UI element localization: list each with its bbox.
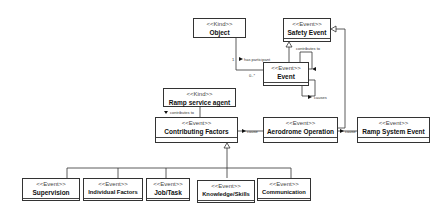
label-cause-rse: cause: [345, 129, 356, 134]
class-name: Safety Event: [284, 28, 330, 39]
class-name: Job/Task: [147, 188, 189, 199]
stereotype-label: <<Event>>: [23, 179, 79, 188]
class-name: Communication: [258, 188, 310, 199]
stereotype-label: <<Event>>: [156, 118, 237, 127]
class-safety-event[interactable]: <<Event>> Safety Event: [283, 18, 331, 42]
stereotype-label: <<Kind>>: [164, 89, 235, 98]
generalization-arrow-safety-event-right: [331, 26, 336, 32]
label-contributes-to-left: contributes to: [170, 110, 194, 115]
class-individual-factors[interactable]: <<Event>> Individual Factors: [83, 178, 143, 201]
generalization-arrow-contributing-factors: [224, 143, 230, 148]
class-name: Event: [264, 72, 308, 83]
generalization-arrow-safety-event: [286, 42, 292, 47]
class-name: Contributing Factors: [156, 127, 237, 138]
class-knowledge-skills[interactable]: <<Event>> Knowledge/Skills: [197, 180, 255, 203]
class-name: Ramp service agent: [164, 98, 235, 108]
stereotype-label: <<Event>>: [358, 118, 429, 127]
class-name: Aerodrome Operation: [264, 127, 337, 138]
label-contributes-to-top: contributes to: [296, 46, 320, 51]
class-ramp-service-agent[interactable]: <<Kind>> Ramp service agent: [163, 88, 236, 107]
class-aerodrome-operation[interactable]: <<Event>> Aerodrome Operation: [263, 117, 338, 143]
stereotype-label: <<Event>>: [264, 63, 308, 72]
class-job-task[interactable]: <<Event>> Job/Task: [146, 178, 190, 201]
class-name: Object: [194, 28, 245, 38]
class-name: Ramp System Event: [358, 127, 429, 138]
label-multiplicity-0-many: 0..*: [249, 73, 255, 78]
label-multiplicity-1: 1: [232, 57, 234, 62]
class-contributing-factors[interactable]: <<Event>> Contributing Factors: [155, 117, 238, 143]
class-ramp-system-event[interactable]: <<Event>> Ramp System Event: [357, 117, 430, 143]
class-name: Supervision: [23, 188, 79, 199]
stereotype-label: <<Event>>: [258, 179, 310, 188]
stereotype-label: <<Event>>: [284, 19, 330, 28]
class-supervision[interactable]: <<Event>> Supervision: [22, 178, 80, 201]
stereotype-label: <<Kind>>: [194, 19, 245, 28]
class-name: Knowledge/Skills: [198, 190, 254, 201]
class-event[interactable]: <<Event>> Event: [263, 62, 309, 86]
stereotype-label: <<Event>>: [84, 179, 142, 188]
label-has-participant: has participant: [244, 57, 270, 62]
label-cause-cf: cause: [247, 129, 258, 134]
stereotype-label: <<Event>>: [147, 179, 189, 188]
class-name: Individual Factors: [84, 188, 142, 199]
class-object[interactable]: <<Kind>> Object: [193, 18, 246, 38]
class-communication[interactable]: <<Event>> Communication: [257, 178, 311, 201]
stereotype-label: <<Event>>: [264, 118, 337, 127]
label-causes: causes: [314, 95, 327, 100]
stereotype-label: <<Event>>: [198, 181, 254, 190]
